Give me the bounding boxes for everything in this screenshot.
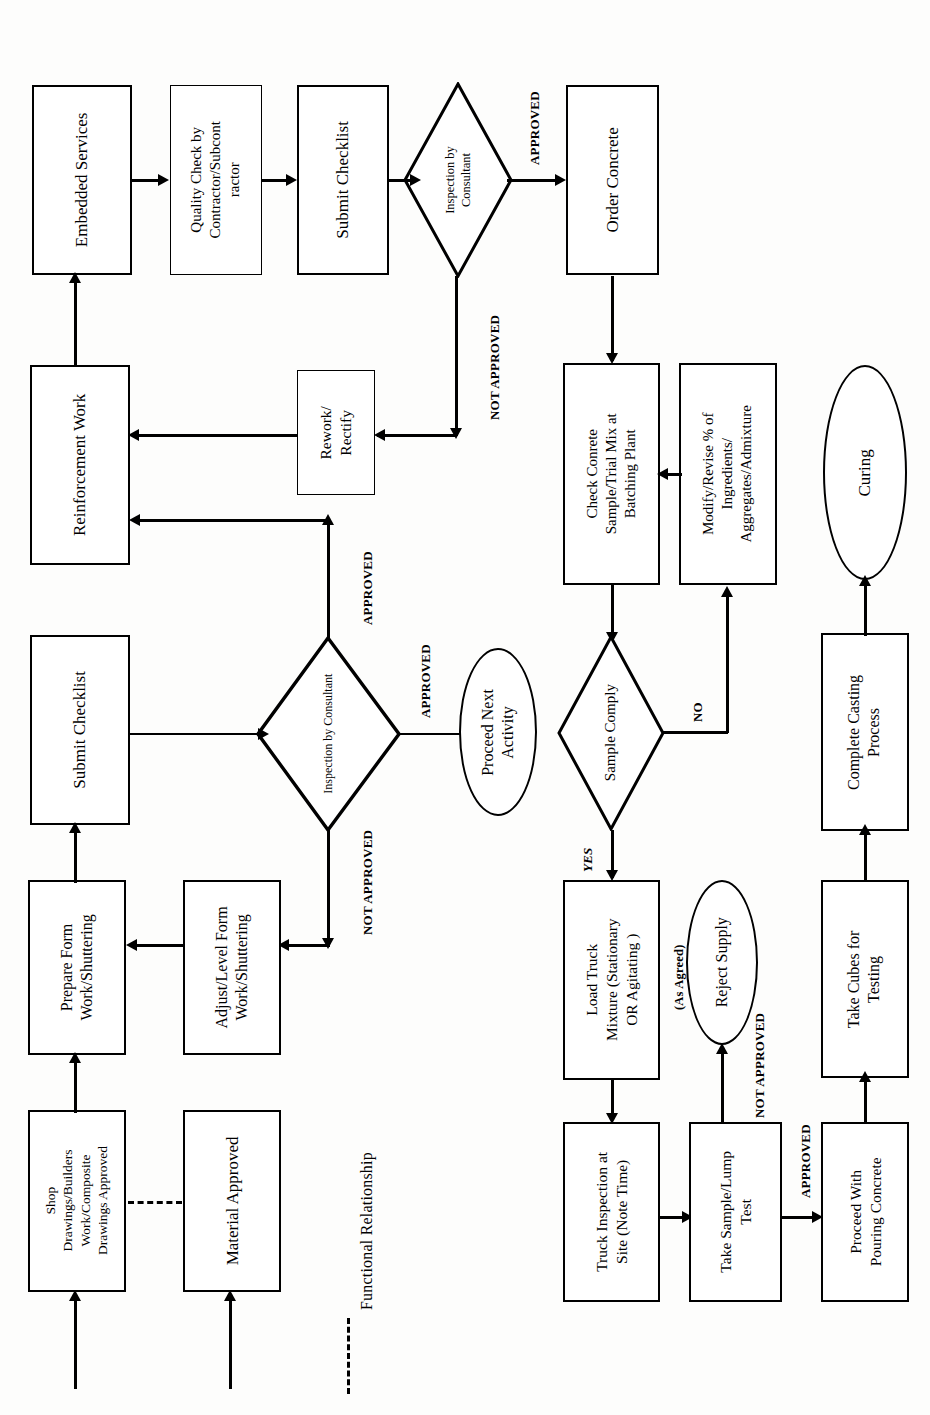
edge-embedded-to-quality (132, 179, 159, 182)
arrowhead (129, 514, 140, 526)
node-label: Submit Checklist (69, 671, 91, 789)
edge-check-to-comply (611, 584, 614, 639)
arrowhead (859, 575, 871, 586)
node-label: Inspection by Consultant (321, 674, 336, 794)
edge-submit-to-inspection (389, 179, 412, 182)
arrowhead (69, 822, 81, 833)
arrowhead (126, 939, 137, 951)
node-quality-check[interactable]: Quality Check by Contractor/Subcont ract… (170, 85, 262, 275)
edge-cubes-to-casting (864, 830, 867, 882)
edge-inspection2-approved-v (327, 520, 330, 640)
arrowhead (657, 468, 668, 480)
edge-comply-no-h (663, 731, 728, 734)
arrowhead (721, 586, 733, 597)
edge-start-to-material (229, 1296, 232, 1389)
edge-label-no: NO (690, 702, 706, 722)
node-shop-drawings[interactable]: Shop Drawings/Builders Work/Composite Dr… (28, 1110, 126, 1292)
functional-relationship-link (128, 1201, 182, 1204)
node-label: Reinforcement Work (69, 394, 91, 536)
arrowhead (859, 824, 871, 835)
edge-label-approved-1: APPROVED (527, 91, 543, 165)
arrowhead (158, 174, 169, 186)
arrowhead (69, 1052, 81, 1063)
node-truck-inspection[interactable]: Truck Inspection at Site (Note Time) (563, 1122, 660, 1302)
edge-reinforcement-to-embedded (74, 277, 77, 367)
node-label: Take Cubes for Testing (845, 930, 886, 1028)
node-proceed-next-activity[interactable]: Proceed Next Activity (459, 648, 537, 816)
node-modify-revise[interactable]: Modify/Revise % of Ingredients/ Aggregat… (679, 363, 777, 585)
flowchart-canvas: Embedded Services Quality Check by Contr… (0, 0, 930, 1415)
edge-shop-to-prepare (74, 1058, 77, 1113)
edge-not-approved2-h (282, 944, 330, 947)
edge-order-to-check (611, 276, 614, 361)
node-label: Order Concrete (602, 127, 624, 232)
node-label: Shop Drawings/Builders Work/Composite Dr… (42, 1146, 111, 1255)
arrowhead (258, 728, 269, 740)
node-material-approved[interactable]: Material Approved (183, 1110, 281, 1292)
node-load-truck[interactable]: Load Truck Mixture (Stationary OR Agitat… (563, 880, 660, 1080)
node-label: Check Conrete Sample/Trial Mix at Batchi… (583, 413, 641, 534)
edge-casting-to-curing (864, 582, 867, 636)
node-label: Proceed Next Activity (478, 689, 519, 776)
node-reinforcement-work[interactable]: Reinforcement Work (30, 365, 130, 565)
node-label: Material Approved (221, 1137, 243, 1266)
edge-label-not-approved-3: NOT APPROVED (752, 1013, 768, 1118)
node-label: Reject Supply (712, 917, 732, 1007)
arrowhead (716, 1043, 728, 1054)
edge-inspection-not-approved-v (455, 276, 458, 436)
node-reject-supply[interactable]: Reject Supply (686, 880, 758, 1045)
node-submit-checklist-top[interactable]: Submit Checklist (297, 85, 389, 275)
arrowhead (224, 1290, 236, 1301)
edge-inspection2-to-proceed (399, 733, 461, 735)
node-embedded-services[interactable]: Embedded Services (32, 85, 132, 275)
node-take-cubes[interactable]: Take Cubes for Testing (821, 880, 909, 1078)
edge-adjust-to-prepare (130, 944, 184, 947)
node-rework-rectify[interactable]: Rework/ Rectify (297, 370, 375, 495)
node-check-concrete-sample[interactable]: Check Conrete Sample/Trial Mix at Batchi… (563, 363, 660, 585)
edge-sample-to-pouring (782, 1216, 815, 1219)
edge-comply-no-v (726, 592, 729, 733)
edge-quality-to-submit (262, 179, 287, 182)
node-label: Proceed With Pouring Concrete (845, 1158, 885, 1267)
edge-inspection2-not-approved-v (327, 830, 330, 945)
node-label: Modify/Revise % of Ingredients/ Aggregat… (699, 405, 757, 542)
node-label: Adjust/Level Form Work/Shuttering (212, 906, 253, 1028)
arrowhead (374, 429, 385, 441)
node-proceed-pouring[interactable]: Proceed With Pouring Concrete (821, 1122, 909, 1302)
edge-rework-to-reinforcement (132, 434, 298, 437)
edge-start-to-shop (74, 1296, 77, 1389)
legend-label: Functional Relationship (358, 1152, 376, 1310)
edge-label-yes: YES (580, 848, 596, 872)
edge-label-not-approved-2: NOT APPROVED (360, 830, 376, 935)
arrowhead (555, 174, 566, 186)
node-inspection-consultant-mid[interactable]: Inspection by Consultant (256, 636, 401, 832)
node-label: Take Sample/Lump Test (716, 1151, 756, 1273)
node-label: Quality Check by Contractor/Subcont ract… (187, 121, 245, 238)
node-order-concrete[interactable]: Order Concrete (566, 85, 659, 275)
node-curing[interactable]: Curing (823, 365, 907, 580)
edge-label-approved-2: APPROVED (360, 551, 376, 625)
edge-label-approved-3: APPROVED (418, 644, 434, 718)
edge-not-approved-to-rework (377, 434, 456, 437)
node-submit-checklist-mid[interactable]: Submit Checklist (30, 635, 130, 825)
node-label: Prepare Form Work/Shuttering (57, 914, 98, 1020)
node-complete-casting[interactable]: Complete Casting Process (821, 633, 909, 831)
node-load-truck-note: (As Agreed) (672, 945, 687, 1011)
edge-label-approved-4: APPROVED (798, 1124, 814, 1198)
node-adjust-level-form[interactable]: Adjust/Level Form Work/Shuttering (183, 880, 281, 1055)
node-label: Sample Comply (601, 684, 620, 781)
node-label: Curing (854, 449, 876, 496)
node-label: Load Truck Mixture (Stationary OR Agitat… (582, 919, 641, 1042)
node-prepare-form[interactable]: Prepare Form Work/Shuttering (28, 880, 126, 1055)
node-label: Complete Casting Process (845, 674, 886, 789)
node-take-sample-lump-test[interactable]: Take Sample/Lump Test (689, 1122, 782, 1302)
arrowhead (286, 174, 297, 186)
node-label: Submit Checklist (332, 121, 354, 239)
edge-label-not-approved-1: NOT APPROVED (487, 315, 503, 420)
edge-prepare-to-submit2 (74, 828, 77, 883)
legend-dashed-sample (347, 1318, 350, 1394)
edge-sample-to-reject-v (721, 1050, 724, 1124)
node-sample-comply[interactable]: Sample Comply (557, 635, 665, 831)
edge-inspection-to-order (507, 179, 557, 182)
arrowhead (69, 1290, 81, 1301)
